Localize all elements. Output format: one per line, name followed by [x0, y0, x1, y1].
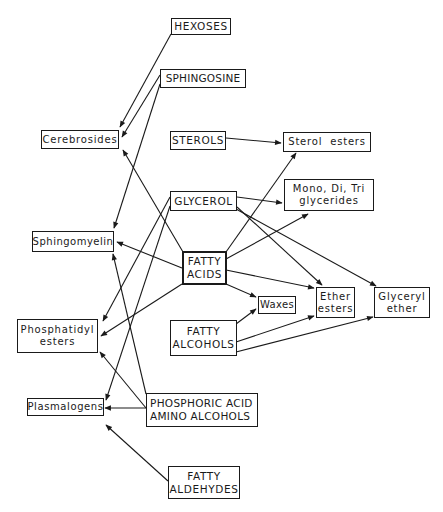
node-label-line1: Mono, Di, Tri	[293, 183, 365, 195]
node-glyceryl-ether: Glyceryl ether	[374, 287, 430, 318]
node-label: HEXOSES	[174, 20, 227, 33]
lipid-diagram: HEXOSES SPHINGOSINE Cerebrosides STEROLS…	[0, 0, 443, 512]
node-sphingomyelin: Sphingomyelin	[32, 231, 114, 252]
node-label-line2: ALCOHOLS	[172, 338, 234, 351]
node-sterols: STEROLS	[170, 131, 226, 150]
node-label-line1: Phosphatidyl	[21, 324, 95, 336]
node-label-line2: esters	[318, 303, 354, 315]
node-label-line2: ACIDS	[187, 268, 222, 281]
edge-glycerol-glycerylether	[236, 209, 376, 286]
node-label-line2: ether	[387, 303, 418, 315]
node-label-line1: FATTY	[187, 470, 221, 483]
node-glycerol: GLYCEROL	[170, 191, 237, 211]
node-sterol-esters: Sterol esters	[283, 132, 371, 152]
node-label-line1: FATTY	[187, 325, 221, 338]
edge-sterols-sterolesters	[226, 138, 281, 143]
edge-sphingosine-cerebrosides	[122, 75, 160, 137]
node-label: Sphingomyelin	[33, 236, 114, 248]
node-label-line1: Glyceryl	[378, 291, 425, 303]
node-cerebrosides: Cerebrosides	[41, 130, 119, 149]
node-fatty-alcohols: FATTY ALCOHOLS	[170, 320, 237, 356]
edge-fattyacids-waxes	[226, 284, 256, 297]
node-phosphatidyl-esters: Phosphatidyl esters	[17, 319, 98, 353]
edge-fattyacids-etheresters	[226, 270, 314, 288]
node-label-line2: glycerides	[299, 195, 358, 207]
edge-fattyalcohols-etheresters	[236, 316, 314, 342]
node-ether-esters: Ether esters	[316, 287, 355, 318]
node-hexoses: HEXOSES	[171, 18, 231, 35]
edge-phosphoric-phosphatidyl	[100, 352, 146, 408]
node-label: Sterol esters	[288, 136, 366, 148]
node-phosphoric-acid-amino-alcohols: PHOSPHORIC ACID AMINO ALCOHOLS	[146, 393, 258, 427]
edge-fattyalcohols-glycerylether	[236, 317, 373, 352]
node-fatty-aldehydes: FATTY ALDEHYDES	[168, 466, 240, 499]
node-label-line1: Ether	[320, 291, 351, 303]
node-label-line1: PHOSPHORIC ACID	[150, 397, 253, 410]
node-label-line2: esters	[40, 336, 76, 348]
node-fatty-acids: FATTY ACIDS	[182, 251, 227, 285]
node-label-line1: FATTY	[188, 255, 222, 268]
node-label: Cerebrosides	[43, 134, 118, 146]
node-waxes: Waxes	[258, 296, 296, 314]
node-label-line2: ALDEHYDES	[170, 483, 239, 496]
node-label: GLYCEROL	[174, 195, 233, 208]
node-label: STEROLS	[172, 134, 224, 147]
edge-sphingosine-sphingomyelin	[114, 84, 160, 228]
edge-fattyacids-glycerides	[226, 214, 308, 259]
node-label-line2: AMINO ALCOHOLS	[150, 410, 250, 423]
node-sphingosine: SPHINGOSINE	[160, 69, 246, 88]
edge-fattyaldehydes-plasmalogens	[106, 425, 168, 481]
edge-fattyalcohols-waxes	[236, 309, 256, 324]
node-label: Plasmalogens	[27, 401, 103, 413]
edge-fattyacids-sphingomyelin	[117, 242, 182, 268]
edge-glycerol-glycerides	[237, 197, 282, 203]
node-label: Waxes	[260, 299, 294, 311]
node-glycerides: Mono, Di, Tri glycerides	[284, 179, 374, 211]
node-plasmalogens: Plasmalogens	[27, 398, 104, 416]
node-label: SPHINGOSINE	[166, 72, 241, 85]
